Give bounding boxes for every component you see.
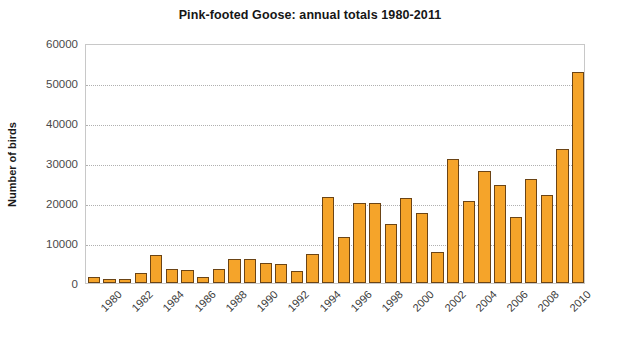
bar <box>572 72 584 283</box>
bar <box>541 195 553 283</box>
x-axis-tick-label: 1994 <box>317 288 343 314</box>
y-axis-title: Number of birds <box>6 100 26 230</box>
bar <box>260 263 272 283</box>
y-axis-tick-label: 60000 <box>8 38 78 50</box>
bar <box>478 171 490 283</box>
bar <box>447 159 459 283</box>
x-axis-tick-labels: 1980198219841986198819901992199419961998… <box>85 288 585 338</box>
x-axis-tick-label: 2000 <box>410 288 436 314</box>
x-axis-tick-label: 1990 <box>254 288 280 314</box>
bar <box>431 252 443 283</box>
x-axis-tick-label: 1998 <box>379 288 405 314</box>
x-axis-tick-label: 1980 <box>98 288 124 314</box>
bar <box>228 259 240 283</box>
y-axis-tick-label: 0 <box>8 278 78 290</box>
bar <box>291 271 303 283</box>
bar <box>88 277 100 283</box>
y-axis-tick-label: 50000 <box>8 78 78 90</box>
bar <box>353 203 365 283</box>
bar <box>197 277 209 283</box>
plot-area <box>85 44 585 284</box>
y-axis-tick-label: 10000 <box>8 238 78 250</box>
bar <box>306 254 318 283</box>
bar <box>400 198 412 283</box>
bar <box>322 197 334 283</box>
bar <box>150 255 162 283</box>
bar <box>525 179 537 283</box>
x-axis-tick-label: 1988 <box>223 288 249 314</box>
bar <box>166 269 178 283</box>
bar <box>463 201 475 283</box>
bar <box>338 237 350 283</box>
bar <box>213 269 225 283</box>
x-axis-tick-label: 1992 <box>285 288 311 314</box>
bar <box>275 264 287 283</box>
bar <box>416 213 428 283</box>
chart-title: Pink-footed Goose: annual totals 1980-20… <box>0 8 620 22</box>
bar-series <box>86 45 584 283</box>
bar <box>103 279 115 283</box>
x-axis-tick-label: 1996 <box>348 288 374 314</box>
x-axis-tick-label: 2008 <box>535 288 561 314</box>
x-axis-tick-label: 1982 <box>129 288 155 314</box>
bar <box>135 273 147 283</box>
x-axis-tick-label: 2010 <box>567 288 593 314</box>
x-axis-tick-label: 2006 <box>504 288 530 314</box>
chart-container: Pink-footed Goose: annual totals 1980-20… <box>0 0 620 339</box>
x-axis-tick-label: 2002 <box>442 288 468 314</box>
bar <box>556 149 568 283</box>
bar <box>510 217 522 283</box>
bar <box>385 224 397 283</box>
x-axis-tick-label: 1984 <box>160 288 186 314</box>
bar <box>181 270 193 283</box>
x-axis-tick-label: 1986 <box>192 288 218 314</box>
x-axis-tick-label: 2004 <box>473 288 499 314</box>
bar <box>369 203 381 283</box>
bar <box>119 279 131 283</box>
bar <box>244 259 256 283</box>
bar <box>494 185 506 283</box>
